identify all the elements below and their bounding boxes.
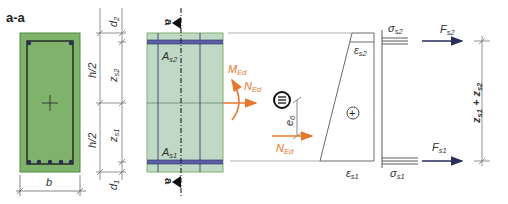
label-sigma-s1: σs1 [390,167,405,181]
svg-text:+: + [349,107,355,119]
label-b: b [46,176,52,188]
rebar-top [27,41,31,45]
stress-diagram [382,30,418,168]
label-d1: d1 [107,180,121,190]
label-NEd-2: NEd [276,142,294,156]
diagram: a-a b [0,0,508,204]
label-Fs1: Fs1 [432,141,447,155]
moment-arrow-icon [232,80,239,120]
rebar-As2 [147,40,223,44]
label-d2: d2 [107,16,121,27]
cross-section [20,33,80,172]
label-NEd-1: NEd [244,80,262,94]
label-MEd: MEd [228,63,247,77]
section-mark-bottom: a [163,178,175,185]
section-title: a-a [6,10,26,25]
label-zs1: zs1 [107,129,121,143]
elevation-view [147,8,223,198]
rebar-bottom [27,160,31,164]
label-e0: e0 [283,115,297,126]
section-mark-top: a [163,19,175,26]
label-sigma-s2: σs2 [388,22,403,36]
label-es1: εs1 [346,167,359,181]
label-h2-top: h/2 [86,63,98,78]
rebar-As1 [147,160,223,164]
label-lever-arm: zs1 + zs2 [470,82,484,124]
label-h2-bottom: h/2 [86,133,98,148]
dimension-chain [96,8,126,180]
label-Fs2: Fs2 [440,23,455,37]
label-zs2: zs2 [107,68,121,83]
